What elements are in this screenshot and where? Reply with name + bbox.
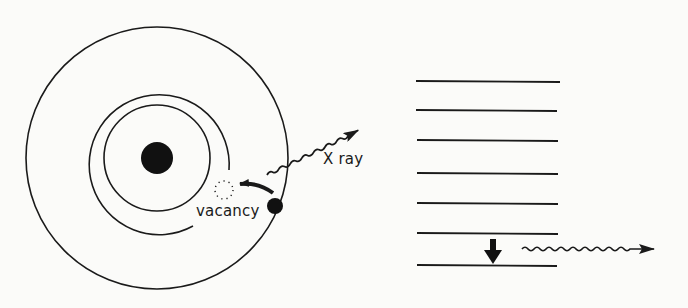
energy-level-7 xyxy=(417,265,557,266)
vacancy-label: vacancy xyxy=(196,202,260,220)
electron-transition-arrow xyxy=(240,184,273,193)
xray-label: X ray xyxy=(323,150,363,168)
energy-level-diagram xyxy=(416,81,560,266)
atom xyxy=(26,27,358,289)
energy-level-3 xyxy=(417,140,558,141)
energy-level-5 xyxy=(417,203,558,204)
emitted-photon-arrow xyxy=(522,247,654,251)
energy-level-4 xyxy=(417,173,558,174)
nucleus xyxy=(141,142,173,174)
level-transition-arrow xyxy=(484,239,502,264)
energy-level-6 xyxy=(417,233,558,234)
vacancy-hole xyxy=(215,181,233,199)
energy-level-1 xyxy=(416,81,560,82)
xray-emission-diagram: vacancy X ray xyxy=(0,0,688,308)
electron xyxy=(267,198,283,214)
energy-level-2 xyxy=(416,110,557,111)
